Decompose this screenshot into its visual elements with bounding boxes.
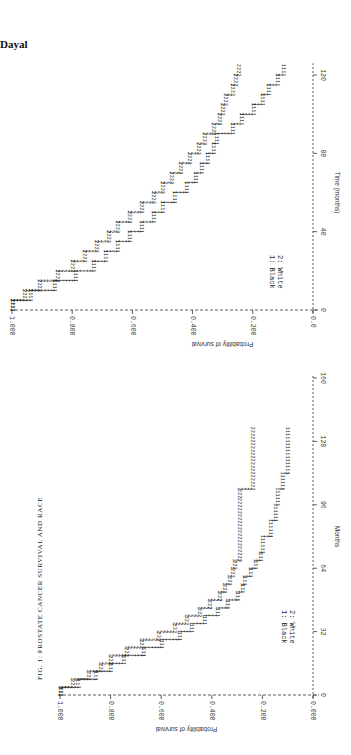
svg-text:2: 2	[232, 564, 237, 567]
svg-text:1: 1	[275, 491, 280, 494]
svg-text:1: 1	[189, 630, 194, 633]
svg-text:1: 1	[253, 567, 258, 570]
svg-text:1: 1	[260, 538, 265, 541]
svg-text:2: 2	[233, 77, 238, 80]
svg-text:2: 2	[124, 654, 129, 657]
svg-text:1: 1	[266, 90, 271, 93]
svg-text:2: 2	[237, 524, 242, 527]
y-tick-label: 0.800	[68, 316, 75, 336]
svg-text:1: 1	[215, 614, 220, 617]
x-tick-label: 32	[319, 628, 326, 636]
svg-text:1: 1	[268, 532, 273, 535]
svg-text:2: 2	[223, 97, 228, 100]
svg-text:2: 2	[237, 536, 242, 539]
chart-fig1-prostate-survival: 0.0000.2000.4000.6000.8001.0000326496128…	[36, 372, 341, 733]
svg-text:2: 2	[70, 686, 75, 689]
svg-text:2: 2	[217, 595, 222, 598]
svg-text:1: 1	[260, 551, 265, 554]
svg-text:1: 1	[115, 250, 120, 253]
svg-text:2: 2	[250, 440, 255, 443]
svg-text:2: 2	[124, 651, 129, 654]
svg-text:2: 2	[70, 266, 75, 269]
svg-text:1: 1	[235, 595, 240, 598]
svg-text:1: 1	[121, 662, 126, 665]
svg-text:1: 1	[115, 243, 120, 246]
svg-text:2: 2	[222, 591, 227, 594]
svg-text:2: 2	[86, 678, 91, 681]
svg-text:1: 1	[239, 116, 244, 119]
svg-text:2: 2	[202, 139, 207, 142]
svg-text:2: 2	[237, 549, 242, 552]
svg-text:1: 1	[91, 269, 96, 272]
svg-text:1: 1	[108, 667, 113, 670]
svg-text:1: 1	[240, 591, 245, 594]
svg-text:2: 2	[237, 540, 242, 543]
svg-text:1: 1	[177, 638, 182, 641]
svg-text:1: 1	[280, 481, 285, 484]
svg-text:2: 2	[55, 273, 60, 276]
svg-text:1: 1	[184, 185, 189, 188]
svg-text:2: 2	[237, 504, 242, 507]
svg-text:2: 2	[220, 110, 225, 113]
x-tick-label: 120	[319, 69, 326, 81]
svg-text:2: 2	[250, 462, 255, 465]
svg-text:1: 1	[193, 178, 198, 181]
svg-text:1: 1	[199, 165, 204, 168]
svg-text:1: 1	[52, 289, 57, 292]
svg-text:2: 2	[236, 70, 241, 73]
y-tick-label: 0.400	[189, 316, 196, 336]
svg-text:2: 2	[22, 296, 27, 299]
svg-text:2: 2	[227, 583, 232, 586]
x-axis-title: Time (months)	[333, 172, 341, 214]
svg-text:2: 2	[207, 606, 212, 609]
svg-text:1: 1	[159, 646, 164, 649]
svg-text:1: 1	[91, 266, 96, 269]
y-tick-label: 0.600	[157, 701, 164, 721]
svg-text:2: 2	[236, 67, 241, 70]
svg-text:2: 2	[211, 126, 216, 129]
svg-text:2: 2	[160, 185, 165, 188]
svg-text:1: 1	[151, 220, 156, 223]
series-black: 1111111111111111111111111111111111111111…	[10, 64, 286, 312]
svg-text:2: 2	[223, 100, 228, 103]
svg-text:1: 1	[266, 93, 271, 96]
svg-text:1: 1	[281, 74, 286, 77]
svg-text:1: 1	[268, 535, 273, 538]
svg-text:2: 2	[70, 269, 75, 272]
x-tick-label: 0	[319, 693, 326, 697]
svg-text:2: 2	[237, 508, 242, 511]
svg-text:1: 1	[205, 162, 210, 165]
svg-text:1: 1	[285, 453, 290, 456]
svg-text:2: 2	[108, 659, 113, 662]
svg-text:2: 2	[230, 93, 235, 96]
svg-text:2: 2	[217, 123, 222, 126]
svg-text:1: 1	[199, 172, 204, 175]
svg-text:2: 2	[230, 575, 235, 578]
svg-text:2: 2	[220, 113, 225, 116]
svg-text:1: 1	[202, 619, 207, 622]
svg-text:1: 1	[93, 678, 98, 681]
svg-text:1: 1	[242, 583, 247, 586]
svg-text:2: 2	[236, 64, 241, 67]
svg-text:2: 2	[237, 498, 242, 501]
svg-text:2: 2	[108, 662, 113, 665]
svg-text:1: 1	[260, 97, 265, 100]
svg-text:1: 1	[285, 465, 290, 468]
svg-text:2: 2	[127, 220, 132, 223]
svg-text:1: 1	[52, 286, 57, 289]
svg-text:1: 1	[214, 142, 219, 145]
svg-text:1: 1	[225, 603, 230, 606]
svg-text:2: 2	[250, 427, 255, 430]
svg-text:1: 1	[275, 80, 280, 83]
svg-text:2: 2	[250, 443, 255, 446]
x-tick-label: 128	[319, 436, 326, 448]
y-tick-label: 0.200	[249, 316, 256, 336]
svg-text:2: 2	[55, 276, 60, 279]
y-axis-title: Probability of survival	[191, 340, 253, 348]
svg-text:2: 2	[220, 106, 225, 109]
svg-text:1: 1	[275, 77, 280, 80]
svg-text:2: 2	[237, 520, 242, 523]
svg-text:2: 2	[237, 495, 242, 498]
svg-text:2: 2	[22, 292, 27, 295]
svg-text:2: 2	[151, 195, 156, 198]
